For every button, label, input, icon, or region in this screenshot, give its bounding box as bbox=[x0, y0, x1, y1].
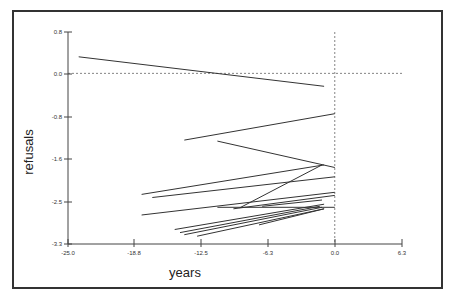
axes bbox=[68, 32, 402, 244]
line-chart: 0.80.0-0.8-1.6-2.5-3.3 -25.0-18.8-12.5-6… bbox=[0, 0, 452, 299]
y-tick-label: 0.8 bbox=[54, 29, 63, 35]
y-tick-label: -0.8 bbox=[52, 114, 63, 120]
x-tick-label: -18.8 bbox=[127, 250, 141, 256]
y-axis-title: refusals bbox=[21, 129, 36, 175]
series-lines bbox=[79, 57, 335, 236]
x-axis-title: years bbox=[169, 265, 201, 280]
series-line-case-5 bbox=[152, 177, 334, 198]
reference-lines bbox=[68, 32, 403, 244]
series-line-case-4 bbox=[142, 165, 325, 195]
series-line-case-3 bbox=[217, 141, 334, 167]
x-tick-label: -6.3 bbox=[263, 250, 274, 256]
x-tick-label: -12.5 bbox=[194, 250, 208, 256]
x-tick-label: 6.3 bbox=[398, 250, 407, 256]
y-axis-ticks: 0.80.0-0.8-1.6-2.5-3.3 bbox=[52, 29, 72, 247]
y-tick-label: 0.0 bbox=[54, 71, 63, 77]
series-line-case-2 bbox=[184, 114, 334, 140]
x-tick-label: 0.0 bbox=[331, 250, 340, 256]
series-line-case-12 bbox=[184, 207, 322, 234]
series-line-case-11 bbox=[180, 206, 320, 232]
x-axis-ticks: -25.0-18.8-12.5-6.30.06.3 bbox=[61, 239, 407, 256]
y-tick-label: -3.3 bbox=[52, 241, 63, 247]
series-line-case-1 bbox=[79, 57, 324, 87]
x-tick-label: -25.0 bbox=[61, 250, 75, 256]
y-tick-label: -2.5 bbox=[52, 199, 63, 205]
y-tick-label: -1.6 bbox=[52, 156, 63, 162]
